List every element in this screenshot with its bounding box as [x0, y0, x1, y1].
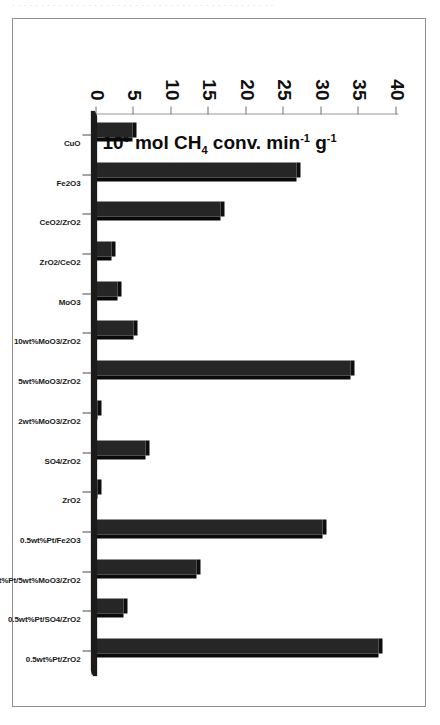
category-label: 0.5wt%Pt/SO4/ZrO2	[7, 614, 80, 623]
y-axis-tick: 15	[208, 106, 209, 114]
bar	[96, 201, 220, 216]
category-label: CeO2/ZrO2	[39, 217, 80, 226]
bar-slot	[96, 156, 396, 192]
y-axis-tick-label: 35	[348, 79, 370, 100]
category-label: ZrO2/CeO2	[39, 257, 80, 266]
y-axis-tick: 25	[283, 106, 284, 114]
category-label: ZrO2	[62, 495, 80, 504]
y-axis-tick: 30	[320, 106, 321, 114]
bar	[96, 559, 197, 574]
bar-slot	[96, 235, 396, 271]
bar-side-face	[96, 455, 146, 459]
category-ticks	[81, 114, 91, 670]
bar	[96, 241, 111, 256]
bar-top-face	[132, 122, 136, 137]
bar-side-face	[96, 256, 111, 260]
bar-slot	[96, 314, 396, 350]
category-tick	[82, 293, 91, 294]
category-label: 5wt%MoO3/ZrO2	[18, 376, 80, 385]
bar	[96, 281, 117, 296]
rotated-figure-wrapper: 106 mol CH4 conv. min-1 g-1 051015202530…	[12, 18, 426, 707]
category-label: 0.5wt%Pt/Fe2O3	[20, 535, 80, 544]
bar	[96, 598, 123, 613]
y-axis-tick: 20	[245, 106, 246, 114]
category-tick	[82, 531, 91, 532]
y-axis-tick-label: 15	[198, 79, 220, 100]
bar-side-face	[96, 335, 134, 339]
category-tick	[82, 332, 91, 333]
bar-top-face	[220, 201, 224, 216]
bar-slot	[96, 513, 396, 549]
bar-side-face	[96, 574, 197, 578]
category-label: SO4/ZrO2	[44, 456, 80, 465]
category-tick	[82, 174, 91, 175]
y-axis-tick: 40	[395, 106, 396, 114]
bar-top-face	[97, 479, 101, 494]
bar-side-face	[96, 375, 350, 379]
y-axis-tick-label: 30	[310, 79, 332, 100]
bar	[96, 638, 378, 653]
category-tick	[82, 253, 91, 254]
bar-side-face	[96, 534, 322, 538]
bar-slot	[96, 195, 396, 231]
category-label: Fe2O3	[56, 178, 80, 187]
bar-slot	[96, 632, 396, 668]
y-axis-tick-label: 40	[385, 79, 407, 100]
category-label: 10wt%MoO3/ZrO2	[13, 336, 80, 345]
category-tick	[82, 452, 91, 453]
bar-top-face	[296, 162, 300, 177]
x-axis-baseline	[91, 114, 96, 674]
bar-slot	[96, 275, 396, 311]
scan-header-text: · · · · · · · · · · · · · · · · · · · · …	[12, 2, 428, 16]
bar-side-face	[96, 137, 132, 141]
y-axis-tick: 10	[170, 106, 171, 114]
bar	[96, 360, 350, 375]
bar-slot	[96, 434, 396, 470]
y-axis-tick-label: 25	[273, 79, 295, 100]
bar-top-face	[134, 320, 138, 335]
category-label: CuO	[63, 138, 80, 147]
y-axis-tick-label: 0	[85, 89, 107, 100]
category-labels: CuOFe2O3CeO2/ZrO2ZrO2/CeO2MoO310wt%MoO3/…	[14, 114, 80, 670]
y-axis-tick: 5	[133, 106, 134, 114]
bar-top-face	[350, 360, 354, 375]
bar-slot	[96, 553, 396, 589]
bar-side-face	[96, 613, 123, 617]
category-tick	[82, 134, 91, 135]
bar	[96, 122, 132, 137]
y-axis-tick: 35	[358, 106, 359, 114]
bar	[96, 162, 296, 177]
bar-top-face	[123, 598, 127, 613]
bar-top-face	[197, 559, 201, 574]
category-tick	[82, 610, 91, 611]
category-tick	[82, 491, 91, 492]
bar-slot	[96, 354, 396, 390]
category-tick	[82, 213, 91, 214]
bar-side-face	[96, 216, 220, 220]
category-tick	[82, 372, 91, 373]
bar-top-face	[111, 241, 115, 256]
y-axis-tick-label: 5	[123, 89, 145, 100]
bar-slot	[96, 116, 396, 152]
category-tick	[82, 412, 91, 413]
bar-side-face	[96, 296, 117, 300]
y-axis-tick-label: 10	[160, 79, 182, 100]
category-label: 0.5wt%Pt/5wt%MoO3/ZrO2	[0, 575, 80, 584]
bar-chart: 106 mol CH4 conv. min-1 g-1 051015202530…	[12, 18, 426, 707]
bar-top-face	[378, 638, 382, 653]
bar	[96, 320, 134, 335]
bar-top-face	[117, 281, 121, 296]
category-label: MoO3	[58, 297, 80, 306]
bar-top-face	[322, 519, 326, 534]
bar-slot	[96, 394, 396, 430]
bar-series	[96, 114, 396, 670]
bar-top-face	[146, 440, 150, 455]
bar-side-face	[96, 177, 296, 181]
category-tick	[82, 650, 91, 651]
y-axis-tick-label: 20	[235, 79, 257, 100]
bar-slot	[96, 592, 396, 628]
bar	[96, 519, 322, 534]
bar-top-face	[98, 400, 102, 415]
category-label: 0.5wt%Pt/ZrO2	[25, 654, 80, 663]
category-label: 2wt%MoO3/ZrO2	[18, 416, 80, 425]
